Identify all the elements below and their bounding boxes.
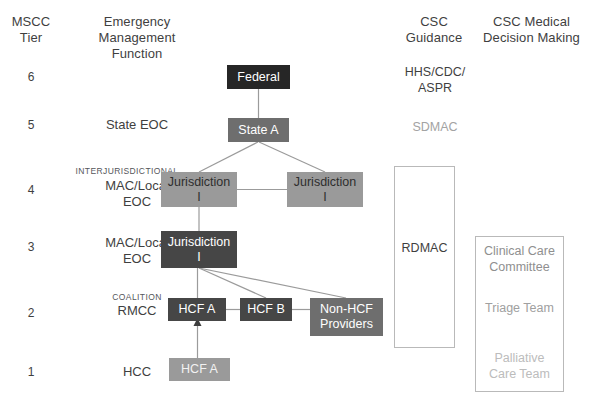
node-jurisdiction-4-right-line2: I [323,190,326,205]
node-non-hcf-providers-line1: Non-HCF [320,302,373,317]
tier-number-1: 1 [14,365,48,379]
node-jurisdiction-4-left[interactable]: Jurisdiction I [161,172,237,207]
header-csc-medical-decision-making: CSC Medical Decision Making [472,14,591,46]
tier-number-5: 5 [14,118,48,132]
node-hcf-b-tier2[interactable]: HCF B [240,298,292,321]
header-csc-medical-line1: CSC Medical [472,14,591,30]
tier-number-4: 4 [14,183,48,197]
header-csc-guidance: CSC Guidance [392,14,476,46]
node-jurisdiction-3-line2: I [197,250,200,265]
triage-team-label: Triage Team [476,300,563,316]
header-csc-medical-line2: Decision Making [472,30,591,46]
csc-guidance-hhs-line2: ASPR [380,80,490,96]
tier-number-6: 6 [14,70,48,84]
palliative-care-team-line1: Palliative [476,350,563,366]
node-hcf-a-tier2[interactable]: HCF A [168,298,226,321]
palliative-care-team-label: Palliative Care Team [476,350,563,382]
palliative-care-team-line2: Care Team [476,366,563,382]
node-jurisdiction-3[interactable]: Jurisdiction I [161,231,237,268]
tier-number-2: 2 [14,306,48,320]
clinical-care-committee-label: Clinical Care Committee [476,243,563,275]
node-federal[interactable]: Federal [227,65,290,89]
emf-label-tier5: State EOC [62,117,212,133]
node-jurisdiction-4-right[interactable]: Jurisdiction I [287,172,363,207]
link-jurisdiction-3-non-hcf [199,268,346,298]
link-state-a-jurisdiction-4-right [259,142,325,172]
node-non-hcf-providers[interactable]: Non-HCF Providers [310,298,383,336]
header-mscc-tier-line2: Tier [0,30,62,46]
node-jurisdiction-4-left-line1: Jurisdiction [168,175,231,190]
header-mscc-tier-line1: MSCC [0,14,62,30]
header-mscc-tier: MSCC Tier [0,14,62,46]
node-jurisdiction-4-left-line2: I [197,190,200,205]
node-non-hcf-providers-line2: Providers [320,317,373,332]
header-emergency-management-function: Emergency Management Function [62,14,212,62]
csc-medical-box: Clinical Care Committee Triage Team Pall… [475,236,564,392]
clinical-care-committee-line2: Committee [476,259,563,275]
rdmac-box: RDMAC [394,166,455,348]
csc-guidance-hhs-cdc-aspr: HHS/CDC/ ASPR [380,64,490,96]
header-csc-guidance-line2: Guidance [392,30,476,46]
link-state-a-jurisdiction-4-left [199,142,258,172]
header-emf-line2: Management [62,30,212,46]
header-emf-line3: Function [62,46,212,62]
node-jurisdiction-4-right-line1: Jurisdiction [294,175,357,190]
node-jurisdiction-3-line1: Jurisdiction [168,235,231,250]
csc-guidance-hhs-line1: HHS/CDC/ [380,64,490,80]
header-csc-guidance-line1: CSC [392,14,476,30]
mscc-tier-diagram: MSCC Tier Emergency Management Function … [0,0,591,408]
rdmac-label: RDMAC [395,240,454,256]
node-hcf-a-tier1[interactable]: HCF A [169,358,230,381]
header-emf-line1: Emergency [62,14,212,30]
tier-number-3: 3 [14,240,48,254]
csc-guidance-sdmac: SDMAC [385,119,485,135]
clinical-care-committee-line1: Clinical Care [476,243,563,259]
node-state-a[interactable]: State A [228,118,289,142]
